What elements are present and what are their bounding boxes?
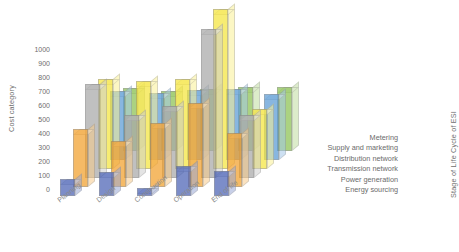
- y-tick-label: 700: [14, 88, 50, 95]
- y-tick-label: 200: [14, 158, 50, 165]
- bar-side-face: [100, 78, 107, 178]
- y-tick-label: 400: [14, 130, 50, 137]
- y-tick-label: 1000: [14, 46, 50, 53]
- z-axis-label-distribution-network: Distribution network: [334, 154, 398, 163]
- bar-side-face: [203, 97, 210, 187]
- y-tick-label: 500: [14, 116, 50, 123]
- z-axis-label-energy-sourcing: Energy sourcing: [345, 185, 398, 194]
- z-axis-label-transmission-network: Transmission network: [327, 164, 398, 173]
- y-tick-label: 800: [14, 74, 50, 81]
- y-tick-label: 900: [14, 60, 50, 67]
- chart-canvas: Cost category Stage of Life Cycle of ESI…: [0, 0, 459, 252]
- y-tick-label: 100: [14, 172, 50, 179]
- y-tick-label: 0: [14, 186, 50, 193]
- z-axis-label-metering: Metering: [370, 133, 398, 142]
- y-tick-label: 600: [14, 102, 50, 109]
- y-axis-ticks: 10009008007006005004003002001000: [8, 0, 50, 252]
- z-axis-label-power-generation: Power generation: [341, 175, 398, 184]
- bar-side-face: [216, 23, 223, 178]
- y-tick-label: 300: [14, 144, 50, 151]
- z-axis-label-supply-and-marketing: Supply and marketing: [327, 143, 398, 152]
- z-axis-title: Stage of Life Cycle of ESI: [449, 100, 458, 210]
